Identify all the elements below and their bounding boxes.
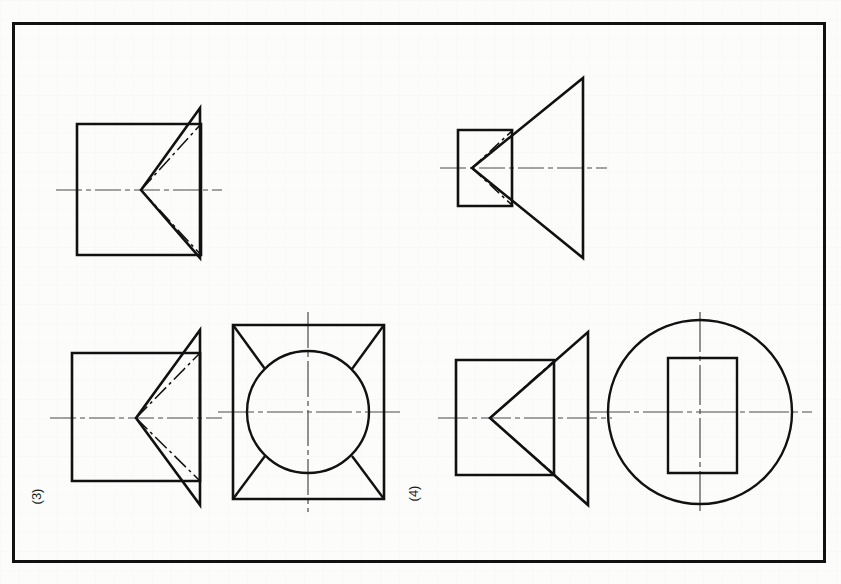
hidden-apex-upper — [136, 353, 200, 418]
corner-diagonal-bottom-left — [233, 456, 265, 499]
corner-diagonal-bottom-right — [352, 456, 384, 499]
inner-rectangle — [668, 358, 737, 473]
figure-3-top-view — [218, 312, 400, 512]
figure-4-front-view-bottom — [438, 332, 612, 505]
hidden-apex-upper — [472, 130, 513, 168]
hidden-apex-upper — [141, 124, 201, 190]
figure-4-top-view — [590, 312, 812, 512]
hidden-apex-lower — [136, 418, 200, 481]
drawing-sheet: (3) (4) — [0, 0, 841, 584]
figure-label-3: (3) — [29, 489, 44, 505]
corner-diagonal-top-right — [352, 325, 384, 369]
figure-4-front-view-top — [440, 78, 607, 258]
figure-3-front-view-bottom — [50, 330, 222, 505]
corner-diagonal-top-left — [233, 325, 265, 369]
hidden-apex-lower — [141, 190, 201, 255]
figure-3-front-view-top — [56, 108, 222, 258]
figure-label-4: (4) — [406, 486, 421, 502]
hidden-apex-lower — [472, 168, 513, 206]
cone-silhouette — [141, 108, 200, 258]
